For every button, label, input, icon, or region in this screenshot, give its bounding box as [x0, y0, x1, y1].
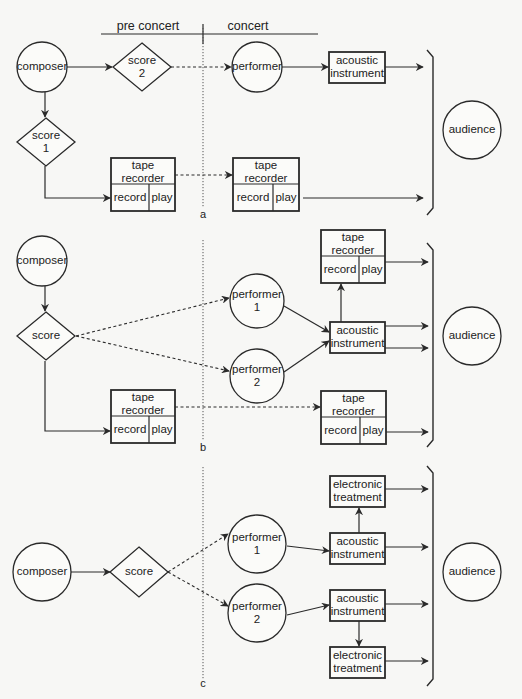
tape-recorder-title: tape [132, 391, 154, 403]
acoustic1-label: instrument [331, 548, 385, 560]
tape-recorder-title: recorder [122, 172, 165, 184]
node-performer2: performer2 [230, 349, 284, 403]
play-label: play [361, 263, 382, 275]
node-performer1: performer1 [228, 515, 286, 573]
concert-diagram: pre concert concert composerscore2perfor… [0, 0, 522, 699]
score-label: score [32, 329, 60, 341]
tape-recorder-title: tape [342, 231, 364, 243]
node-composer: composer [17, 42, 68, 92]
node-elec2: electronictreatment [330, 647, 385, 678]
section-a: composerscore2performeracousticinstrumen… [17, 28, 501, 220]
section-label: a [200, 208, 207, 220]
arrow-score-to-tape1 [45, 361, 110, 431]
arrow-performer1-to-acoustic1 [287, 546, 329, 551]
performer-label: performer [232, 60, 282, 72]
section-c: composerscoreperformer1performer2electro… [13, 466, 501, 689]
acoustic1-label: acoustic [336, 535, 378, 547]
node-score: score [17, 312, 75, 360]
node-tape1: taperecorderrecordplay [111, 390, 175, 443]
section-label: c [200, 677, 206, 689]
node-performer1: performer1 [230, 274, 284, 328]
phase-header: pre concert concert [101, 19, 318, 44]
tape-recorder-title: tape [342, 392, 364, 404]
play-label: play [362, 424, 383, 436]
composer-label: composer [17, 60, 68, 72]
performer2-label: 2 [254, 376, 260, 388]
audience-label: audience [449, 123, 496, 135]
node-elec1: electronictreatment [330, 476, 385, 507]
score1-label: score [32, 129, 60, 141]
section-label: b [200, 441, 206, 453]
tape-recorder-title: recorder [245, 172, 288, 184]
pre-concert-label: pre concert [117, 19, 180, 33]
arrow-performer2-to-acoustic2 [287, 605, 329, 615]
audience-bracket [427, 50, 433, 215]
record-label: record [237, 191, 270, 203]
section-b: composerscoreperformer1performer2acousti… [17, 230, 501, 453]
score1-label: 1 [43, 142, 49, 154]
score2-label: score [128, 54, 156, 66]
node-acoustic2: acousticinstrument [330, 590, 385, 621]
audience-label: audience [449, 329, 496, 341]
acoustic2-label: instrument [331, 605, 385, 617]
arrow-score-to-performer2 [168, 572, 228, 606]
acoustic2-label: acoustic [336, 592, 378, 604]
performer1-label: 1 [254, 544, 260, 556]
node-acoustic: acousticinstrument [330, 322, 385, 353]
arrow-score-to-performer2 [76, 336, 229, 371]
node-audience: audience [443, 307, 501, 365]
acoustic-label: instrument [331, 337, 385, 349]
play-label: play [275, 191, 296, 203]
concert-label: concert [228, 19, 270, 33]
record-label: record [324, 263, 357, 275]
performer1-label: performer [232, 288, 282, 300]
composer-label: composer [17, 565, 68, 577]
arrow-performer2-to-acoustic [284, 341, 329, 372]
audience-label: audience [449, 565, 496, 577]
tape-recorder-title: recorder [332, 405, 375, 417]
audience-bracket [427, 466, 433, 686]
audience-bracket [427, 243, 433, 447]
record-label: record [114, 191, 147, 203]
record-label: record [114, 423, 147, 435]
record-label: record [324, 424, 357, 436]
node-acoustic: acousticinstrument [329, 52, 385, 83]
performer2-label: 2 [254, 613, 260, 625]
diagram-sections: composerscore2performeracousticinstrumen… [13, 28, 501, 689]
node-score1: score1 [17, 118, 75, 166]
tape-recorder-title: recorder [332, 244, 375, 256]
play-label: play [151, 423, 172, 435]
play-label: play [151, 191, 172, 203]
tape-recorder-title: tape [255, 159, 277, 171]
composer-label: composer [17, 254, 68, 266]
acoustic-label: acoustic [336, 54, 378, 66]
tape-recorder-title: tape [132, 159, 154, 171]
performer1-label: performer [232, 531, 282, 543]
acoustic-label: instrument [330, 67, 384, 79]
tape-recorder-title: recorder [122, 404, 165, 416]
node-tape2: taperecorderrecordplay [233, 158, 299, 211]
arrow-score-to-performer1 [168, 534, 228, 572]
arrow-score1-to-tape1 [45, 166, 110, 198]
performer2-label: performer [232, 600, 282, 612]
node-audience: audience [443, 101, 501, 159]
acoustic-label: acoustic [336, 324, 378, 336]
elec1-label: electronic [333, 478, 382, 490]
node-audience: audience [443, 543, 501, 601]
node-composer: composer [13, 543, 71, 601]
node-acoustic1: acousticinstrument [330, 533, 385, 564]
elec2-label: electronic [333, 649, 382, 661]
score2-label: 2 [139, 67, 145, 79]
node-composer: composer [17, 236, 68, 286]
arrow-performer1-to-acoustic [284, 306, 329, 332]
performer2-label: performer [232, 363, 282, 375]
arrow-score-to-performer1 [76, 298, 229, 336]
node-score2: score2 [113, 43, 171, 91]
node-tape1: taperecorderrecordplay [111, 158, 175, 211]
performer1-label: 1 [254, 301, 260, 313]
node-score: score [110, 547, 168, 597]
node-tape2: taperecorderrecordplay [321, 391, 386, 444]
node-tapeTop: taperecorderrecordplay [321, 230, 385, 283]
elec2-label: treatment [333, 662, 382, 674]
node-performer: performer [232, 42, 282, 92]
